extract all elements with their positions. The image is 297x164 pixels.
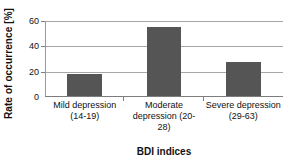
y-axis-tick-labels: 60 40 20 0	[18, 21, 42, 97]
plot-area	[45, 21, 283, 97]
x-axis-tick-labels: Mild depression (14-19) Moderate depress…	[45, 100, 283, 142]
bar-moderate-depression	[147, 27, 182, 97]
y-tick-label-40: 40	[29, 41, 39, 51]
x-tick-label-line: Severe depression	[205, 100, 282, 111]
x-tick-label-line: 28)	[125, 122, 202, 133]
x-tick-label-line: Moderate	[125, 100, 202, 111]
x-tick-label-moderate-depression: Moderate depression (20- 28)	[124, 100, 203, 142]
bars-layer	[45, 21, 283, 97]
bar-mild-depression	[67, 74, 102, 97]
x-tick-label-mild-depression: Mild depression (14-19)	[45, 100, 124, 142]
y-tick-label-60: 60	[29, 16, 39, 26]
y-tick-label-20: 20	[29, 67, 39, 77]
bar-slot-severe-depression	[204, 21, 283, 97]
x-tick-label-line: (29-63)	[205, 111, 282, 122]
bar-chart-figure: Rate of occurrence [%] 60 40 20 0	[0, 0, 297, 164]
y-tick-label-0: 0	[34, 92, 39, 102]
x-axis-line	[45, 96, 283, 97]
x-tick-label-line: depression (20-	[125, 111, 202, 122]
x-tick-label-line: Mild depression	[46, 100, 123, 111]
x-tick-label-line: (14-19)	[46, 111, 123, 122]
y-axis-title: Rate of occurrence [%]	[0, 0, 18, 126]
y-axis-title-text: Rate of occurrence [%]	[4, 7, 15, 118]
bar-severe-depression	[226, 62, 261, 97]
bar-slot-mild-depression	[45, 21, 124, 97]
x-axis-title: BDI indices	[45, 146, 283, 157]
x-tick-label-severe-depression: Severe depression (29-63)	[204, 100, 283, 142]
bar-slot-moderate-depression	[124, 21, 203, 97]
